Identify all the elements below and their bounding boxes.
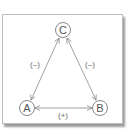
edge-c-a-label: (–) bbox=[30, 60, 40, 69]
node-b: B bbox=[93, 101, 108, 116]
node-c: C bbox=[56, 23, 71, 38]
edge-a-b-label: (+) bbox=[58, 111, 68, 120]
edge-c-b-label: (–) bbox=[85, 60, 95, 69]
node-b-label: B bbox=[96, 102, 103, 114]
node-c-label: C bbox=[59, 24, 67, 36]
triangle-diagram: C A B (–) (–) (+) bbox=[0, 0, 127, 136]
node-a-label: A bbox=[23, 102, 31, 114]
node-a: A bbox=[20, 101, 35, 116]
edge-c-a bbox=[31, 38, 59, 100]
edge-c-b bbox=[67, 38, 96, 100]
